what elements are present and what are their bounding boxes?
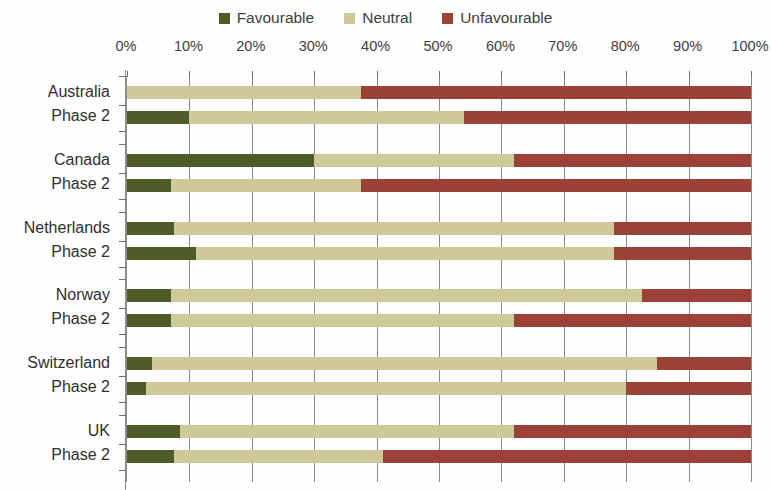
gridline-10 — [189, 76, 190, 482]
bar-segment-favourable — [127, 154, 314, 167]
y-label-norway: Norway — [56, 285, 110, 304]
y-axis-category-labels: AustraliaPhase 2CanadaPhase 2Netherlands… — [0, 76, 120, 482]
bar-row — [127, 111, 751, 124]
bar-segment-unfavourable — [657, 357, 751, 370]
bar-segment-unfavourable — [361, 179, 751, 192]
x-tick-label-0: 0% — [116, 38, 137, 54]
x-tick-label-1: 10% — [174, 38, 203, 54]
x-tick-label-7: 70% — [548, 38, 577, 54]
y-tickmark-7 — [119, 241, 126, 242]
bar-segment-neutral — [314, 154, 514, 167]
x-tickmark-0 — [127, 71, 128, 77]
bar-row — [127, 86, 751, 99]
y-label-netherlands-phase2: Phase 2 — [51, 242, 110, 261]
bar-segment-favourable — [127, 222, 174, 235]
y-tickmark-10 — [119, 308, 126, 309]
y-tickmark-14 — [119, 402, 126, 403]
bar-segment-favourable — [127, 450, 174, 463]
x-tick-label-2: 20% — [236, 38, 265, 54]
y-label-switzerland: Switzerland — [27, 353, 110, 372]
gridline-40 — [377, 76, 378, 482]
y-label-switzerland-phase2: Phase 2 — [51, 377, 110, 396]
bar-row — [127, 247, 751, 260]
bar-row — [127, 425, 751, 438]
bar-segment-unfavourable — [383, 450, 751, 463]
bar-segment-neutral — [189, 111, 464, 124]
bar-segment-unfavourable — [514, 425, 751, 438]
legend-label-unfavourable: Unfavourable — [460, 9, 552, 27]
legend-label-neutral: Neutral — [362, 9, 412, 27]
y-label-canada-phase2: Phase 2 — [51, 174, 110, 193]
bar-segment-unfavourable — [614, 222, 751, 235]
bar-row — [127, 179, 751, 192]
x-tickmark-90 — [689, 71, 690, 77]
x-tick-label-10: 100% — [731, 38, 768, 54]
x-tickmark-80 — [626, 71, 627, 77]
bar-segment-neutral — [180, 425, 514, 438]
y-label-canada: Canada — [54, 150, 110, 169]
bar-segment-unfavourable — [642, 289, 751, 302]
x-axis-tick-labels: 0%10%20%30%40%50%60%70%80%90%100% — [0, 38, 771, 58]
gridline-50 — [439, 76, 440, 482]
x-tick-label-6: 60% — [486, 38, 515, 54]
x-tick-label-8: 80% — [611, 38, 640, 54]
bar-segment-neutral — [171, 179, 361, 192]
bar-segment-unfavourable — [514, 154, 751, 167]
x-tickmark-20 — [252, 71, 253, 77]
x-tickmark-70 — [564, 71, 565, 77]
legend-label-favourable: Favourable — [237, 9, 315, 27]
y-tickmark-12 — [119, 347, 126, 348]
bar-row — [127, 382, 751, 395]
y-label-australia-phase2: Phase 2 — [51, 106, 110, 125]
bar-segment-unfavourable — [464, 111, 751, 124]
y-tickmark-8 — [119, 267, 126, 268]
bar-segment-unfavourable — [614, 247, 751, 260]
legend-swatch-unfavourable — [442, 13, 453, 24]
bar-segment-favourable — [127, 179, 171, 192]
legend-item-unfavourable: Unfavourable — [442, 9, 552, 27]
bar-row — [127, 450, 751, 463]
bar-segment-favourable — [127, 382, 146, 395]
gridline-70 — [564, 76, 565, 482]
legend-item-neutral: Neutral — [344, 9, 412, 27]
x-tickmark-40 — [377, 71, 378, 77]
stacked-bar-chart: Favourable Neutral Unfavourable 0%10%20%… — [0, 0, 771, 490]
y-label-norway-phase2: Phase 2 — [51, 309, 110, 328]
y-tickmark-17 — [119, 470, 126, 471]
y-tickmark-15 — [119, 415, 126, 416]
y-tickmark-0 — [119, 76, 126, 77]
bar-segment-favourable — [127, 111, 189, 124]
legend-swatch-neutral — [344, 13, 355, 24]
x-tick-label-3: 30% — [299, 38, 328, 54]
legend-swatch-favourable — [219, 13, 230, 24]
x-tickmark-50 — [439, 71, 440, 77]
y-label-netherlands: Netherlands — [24, 218, 110, 237]
gridline-100 — [751, 76, 752, 482]
y-tickmark-2 — [119, 131, 126, 132]
bar-segment-favourable — [127, 425, 180, 438]
bar-segment-neutral — [127, 86, 361, 99]
bar-segment-neutral — [171, 289, 642, 302]
bar-segment-neutral — [174, 222, 614, 235]
y-tickmark-13 — [119, 376, 126, 377]
y-tickmark-4 — [119, 173, 126, 174]
legend-item-favourable: Favourable — [219, 9, 315, 27]
bar-row — [127, 314, 751, 327]
bar-segment-neutral — [171, 314, 514, 327]
bar-segment-unfavourable — [361, 86, 751, 99]
gridline-20 — [252, 76, 253, 482]
bar-row — [127, 154, 751, 167]
bar-segment-unfavourable — [626, 382, 751, 395]
gridline-60 — [501, 76, 502, 482]
plot-area — [126, 76, 750, 482]
y-tickmark-11 — [119, 334, 126, 335]
bar-row — [127, 289, 751, 302]
bar-segment-unfavourable — [514, 314, 751, 327]
bar-segment-favourable — [127, 314, 171, 327]
bar-row — [127, 222, 751, 235]
y-label-uk: UK — [88, 421, 110, 440]
y-tickmark-16 — [119, 444, 126, 445]
x-tickmark-30 — [314, 71, 315, 77]
bar-segment-favourable — [127, 357, 152, 370]
bar-segment-neutral — [146, 382, 626, 395]
